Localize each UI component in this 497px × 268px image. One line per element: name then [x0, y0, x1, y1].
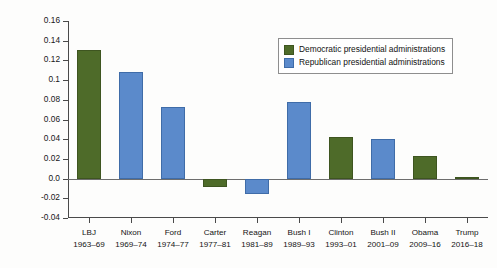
bar-bush-ii: [371, 139, 395, 178]
chart-legend: Democratic presidential administrationsR…: [278, 38, 453, 74]
x-tick: [341, 218, 342, 223]
legend-item-dem: Democratic presidential administrations: [284, 43, 445, 56]
y-tick-label: 0.0: [48, 173, 60, 184]
y-tick-label: 0.04: [44, 133, 60, 144]
bar-ford: [161, 107, 185, 179]
y-tick-label: 0.08: [44, 94, 60, 105]
y-axis-line: [68, 21, 69, 218]
y-tick: 0.16: [63, 21, 68, 22]
bar-carter: [203, 179, 227, 188]
x-tick: [215, 218, 216, 223]
y-tick: -0.04: [63, 218, 68, 219]
y-tick: 0.1: [63, 80, 68, 81]
y-tick: 0.0: [63, 179, 68, 180]
bar-nixon: [119, 72, 143, 178]
bar-obama: [413, 156, 437, 179]
y-tick: -0.02: [63, 198, 68, 199]
y-tick-label: 0.12: [44, 54, 60, 65]
legend-swatch-rep: [284, 58, 294, 68]
x-tick: [299, 218, 300, 223]
x-tick: [383, 218, 384, 223]
y-tick-label: 0.02: [44, 153, 60, 164]
x-label-name: Trump: [439, 227, 495, 239]
zero-baseline: [68, 179, 488, 180]
y-tick-label: 0.14: [44, 35, 60, 46]
bar-bush-i: [287, 102, 311, 179]
x-tick: [425, 218, 426, 223]
y-tick-label: 0.06: [44, 114, 60, 125]
y-tick: 0.04: [63, 139, 68, 140]
x-tick: [467, 218, 468, 223]
y-tick-label: -0.02: [41, 192, 60, 203]
legend-label: Democratic presidential administrations: [299, 44, 445, 55]
y-tick: 0.02: [63, 159, 68, 160]
y-tick-label: 0.1: [48, 74, 60, 85]
x-tick: [173, 218, 174, 223]
chart-figure: Average annual percent change in billion…: [0, 0, 497, 268]
y-tick: 0.14: [63, 41, 68, 42]
bar-clinton: [329, 137, 353, 178]
y-tick: 0.06: [63, 120, 68, 121]
legend-item-rep: Republican presidential administrations: [284, 56, 445, 69]
bar-lbj: [77, 50, 101, 179]
x-tick: [89, 218, 90, 223]
x-tick: [131, 218, 132, 223]
y-tick: 0.08: [63, 100, 68, 101]
legend-label: Republican presidential administrations: [299, 57, 445, 68]
x-tick: [257, 218, 258, 223]
y-tick-label: -0.04: [41, 212, 60, 223]
legend-swatch-dem: [284, 45, 294, 55]
x-label-years: 2016–18: [439, 239, 495, 251]
bar-reagan: [245, 179, 269, 195]
y-tick-label: 0.16: [44, 15, 60, 26]
y-tick: 0.12: [63, 60, 68, 61]
x-axis-label-trump: Trump2016–18: [439, 227, 495, 250]
bar-trump: [455, 177, 479, 179]
